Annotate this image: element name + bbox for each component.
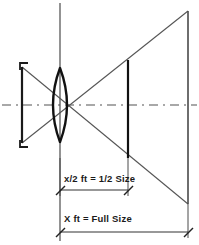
lens-ray-diagram: x/2 ft = 1/2 Size X ft = Full Size xyxy=(0,0,199,245)
ray-lower-crossing xyxy=(22,11,188,143)
full-size-label: X ft = Full Size xyxy=(64,213,132,224)
diagram-canvas: x/2 ft = 1/2 Size X ft = Full Size xyxy=(0,0,199,245)
half-size-label: x/2 ft = 1/2 Size xyxy=(64,173,135,184)
